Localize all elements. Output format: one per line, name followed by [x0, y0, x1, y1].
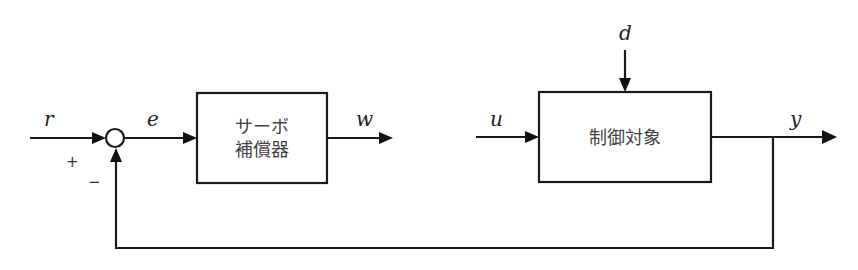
signal-r-label: r	[44, 107, 55, 131]
summing-junction	[106, 129, 124, 147]
signal-e-arrow-icon	[183, 132, 197, 144]
control-block-diagram: r + − e サーボ 補償器 w u d 制御対象 y	[0, 0, 858, 270]
feedback-arrow-icon	[110, 148, 122, 162]
servo-compensator-label-line1: サーボ	[235, 116, 289, 137]
servo-compensator-label-line2: 補償器	[235, 139, 289, 160]
signal-w-label: w	[356, 107, 373, 131]
signal-w-arrow-icon	[379, 132, 393, 144]
plant-label: 制御対象	[589, 127, 661, 148]
signal-y-label: y	[789, 107, 802, 131]
signal-d-arrow-icon	[619, 78, 631, 92]
servo-compensator-block	[197, 93, 327, 183]
signal-r-arrow-icon	[92, 132, 106, 144]
signal-y-arrow-icon	[822, 130, 837, 144]
signal-d-label: d	[619, 21, 632, 45]
signal-u-label: u	[490, 107, 503, 131]
minus-sign: −	[88, 173, 101, 191]
signal-e-label: e	[147, 107, 159, 131]
plus-sign: +	[66, 153, 79, 171]
signal-u-arrow-icon	[525, 131, 539, 143]
